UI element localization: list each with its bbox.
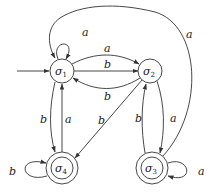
label-s2-s3-a: a — [170, 112, 177, 125]
state-s2: σ2 — [138, 59, 162, 83]
state-s1: σ1 — [50, 59, 74, 83]
label-s1-loop: a — [82, 26, 89, 39]
state-s3-sub: 3 — [153, 168, 157, 176]
state-s2-sub: 2 — [151, 71, 155, 79]
label-s4-s1-a: a — [65, 113, 72, 126]
edge-s2-s3-a — [157, 81, 163, 153]
edge-s1-loop — [57, 44, 69, 59]
state-s1-sub: 1 — [63, 71, 67, 79]
state-diagram: a a b b b a b b a a a b σ1 σ2 σ4 — [0, 0, 215, 196]
edge-s3-s1-a — [49, 6, 191, 156]
label-s1-s2-b: b — [104, 58, 111, 71]
label-s1-s4-b: b — [40, 113, 47, 126]
label-s3-s1-a: a — [186, 28, 193, 41]
state-s4: σ4 — [46, 152, 78, 184]
state-s3: σ3 — [136, 152, 168, 184]
label-s1-s2-a: a — [104, 42, 111, 55]
edge-s4-loop — [25, 162, 47, 178]
edge-s1-s4-b — [51, 82, 56, 152]
edge-s2-s1-b — [73, 78, 140, 89]
edge-s3-s2-b — [142, 84, 146, 153]
label-s3-s2-b: b — [135, 112, 142, 125]
label-s4-loop: b — [9, 165, 16, 178]
state-s4-sub: 4 — [63, 168, 68, 176]
label-s2-s4-b: b — [98, 114, 105, 127]
label-s3-loop: a — [198, 165, 205, 178]
edge-s3-loop — [168, 162, 187, 178]
label-s2-s1-b: b — [104, 90, 111, 103]
